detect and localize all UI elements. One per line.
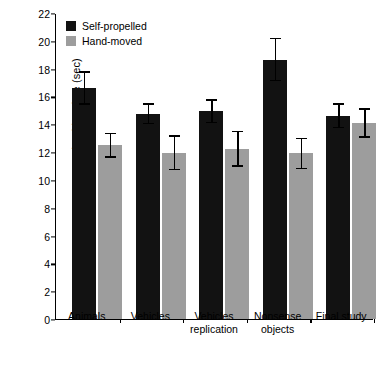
bar-hand-moved <box>289 153 313 319</box>
bar-self-propelled <box>199 111 223 319</box>
bar-group <box>64 14 120 319</box>
y-tick-mark <box>51 292 55 293</box>
y-tick-mark <box>51 152 55 153</box>
y-tick-mark <box>51 97 55 98</box>
bar-hand-moved <box>98 145 122 319</box>
error-bar <box>364 108 365 137</box>
bar-hand-moved <box>225 149 249 319</box>
error-bar <box>301 138 302 170</box>
x-axis-label: Final study <box>296 310 386 323</box>
error-bar <box>211 99 212 123</box>
error-bar-cap <box>296 138 307 139</box>
bar-self-propelled <box>136 114 160 319</box>
x-axis-label-line: Final study <box>296 310 386 323</box>
bar-self-propelled <box>326 116 350 319</box>
error-bar <box>148 103 149 124</box>
bars-layer <box>56 14 373 319</box>
bar-group <box>191 14 247 319</box>
error-bar-cap <box>105 156 116 157</box>
x-axis-label-line: objects <box>233 323 323 336</box>
y-tick-mark <box>51 180 55 181</box>
error-bar <box>275 38 276 81</box>
error-bar <box>338 103 339 128</box>
error-bar-cap <box>206 122 217 123</box>
error-bar-cap <box>169 135 180 136</box>
error-bar <box>237 131 238 167</box>
error-bar-cap <box>359 136 370 137</box>
y-tick-mark <box>51 236 55 237</box>
error-bar-cap <box>232 165 243 166</box>
y-tick-mark <box>51 208 55 209</box>
bar-self-propelled <box>72 88 96 319</box>
bar-group <box>128 14 184 319</box>
error-bar-cap <box>105 133 116 134</box>
error-bar-cap <box>296 168 307 169</box>
bar-group <box>255 14 311 319</box>
bar-hand-moved <box>352 123 376 319</box>
chart-figure: Looking time (sec) Self-propelled Hand-m… <box>0 0 388 369</box>
y-tick-mark <box>51 125 55 126</box>
y-tick-mark <box>51 13 55 14</box>
plot-area <box>55 14 373 320</box>
bar-self-propelled <box>263 60 287 319</box>
y-tick-mark <box>51 41 55 42</box>
error-bar-cap <box>143 123 154 124</box>
error-bar-cap <box>359 108 370 109</box>
error-bar-cap <box>79 103 90 104</box>
error-bar <box>110 133 111 158</box>
error-bar <box>174 135 175 170</box>
bar-group <box>318 14 374 319</box>
error-bar-cap <box>143 103 154 104</box>
y-tick-mark <box>51 69 55 70</box>
error-bar-cap <box>79 71 90 72</box>
error-bar <box>84 71 85 104</box>
error-bar-cap <box>333 127 344 128</box>
error-bar-cap <box>270 80 281 81</box>
y-tick-mark <box>51 264 55 265</box>
error-bar-cap <box>270 38 281 39</box>
error-bar-cap <box>232 131 243 132</box>
error-bar-cap <box>169 169 180 170</box>
error-bar-cap <box>206 99 217 100</box>
error-bar-cap <box>333 103 344 104</box>
bar-hand-moved <box>162 153 186 319</box>
